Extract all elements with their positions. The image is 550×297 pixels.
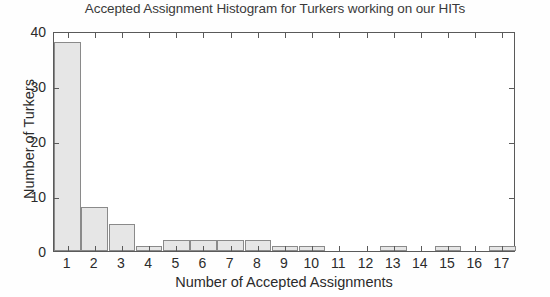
y-tick-label-40: 40 (30, 24, 46, 40)
x-tick-top-8 (258, 33, 259, 38)
x-tick-16 (475, 246, 476, 251)
x-tick-label-9: 9 (269, 255, 299, 271)
x-tick-top-11 (339, 33, 340, 38)
x-tick-2 (95, 246, 96, 251)
bar-2 (81, 207, 108, 251)
x-tick-top-10 (312, 33, 313, 38)
x-tick-label-1: 1 (52, 255, 82, 271)
x-tick-top-4 (149, 33, 150, 38)
x-tick-4 (149, 246, 150, 251)
x-tick-label-6: 6 (187, 255, 217, 271)
plot-area (53, 32, 515, 252)
x-tick-top-16 (475, 33, 476, 38)
y-tick-30 (54, 88, 59, 89)
x-tick-top-12 (367, 33, 368, 38)
y-tick-label-0: 0 (38, 244, 46, 260)
x-tick-3 (122, 246, 123, 251)
x-tick-top-15 (448, 33, 449, 38)
x-tick-top-1 (68, 33, 69, 38)
x-tick-10 (312, 246, 313, 251)
x-tick-14 (421, 246, 422, 251)
x-tick-label-2: 2 (79, 255, 109, 271)
y-tick-right-20 (509, 143, 514, 144)
bar-1 (54, 42, 81, 251)
x-tick-top-3 (122, 33, 123, 38)
x-tick-top-7 (231, 33, 232, 38)
x-tick-label-15: 15 (432, 255, 462, 271)
x-tick-label-13: 13 (378, 255, 408, 271)
x-tick-label-8: 8 (242, 255, 272, 271)
x-axis-label: Number of Accepted Assignments (53, 274, 515, 290)
x-tick-11 (339, 246, 340, 251)
y-tick-right-10 (509, 198, 514, 199)
x-tick-top-6 (203, 33, 204, 38)
x-tick-label-16: 16 (459, 255, 489, 271)
y-tick-20 (54, 143, 59, 144)
y-axis-label: Number of Turkers (21, 44, 37, 234)
x-tick-1 (68, 246, 69, 251)
y-tick-right-30 (509, 88, 514, 89)
x-tick-label-3: 3 (106, 255, 136, 271)
histogram-figure: Accepted Assignment Histogram for Turker… (0, 0, 550, 297)
x-tick-label-12: 12 (351, 255, 381, 271)
x-tick-top-14 (421, 33, 422, 38)
x-tick-label-14: 14 (405, 255, 435, 271)
x-tick-5 (176, 246, 177, 251)
x-tick-label-11: 11 (323, 255, 353, 271)
x-tick-8 (258, 246, 259, 251)
x-tick-label-7: 7 (215, 255, 245, 271)
y-tick-10 (54, 198, 59, 199)
bars-layer (54, 33, 514, 251)
x-tick-top-2 (95, 33, 96, 38)
x-tick-17 (502, 246, 503, 251)
x-tick-label-5: 5 (160, 255, 190, 271)
x-tick-top-17 (502, 33, 503, 38)
x-tick-15 (448, 246, 449, 251)
x-tick-6 (203, 246, 204, 251)
x-tick-top-5 (176, 33, 177, 38)
x-tick-top-13 (394, 33, 395, 38)
x-tick-label-17: 17 (486, 255, 516, 271)
x-tick-12 (367, 246, 368, 251)
x-tick-13 (394, 246, 395, 251)
x-tick-9 (285, 246, 286, 251)
x-tick-top-9 (285, 33, 286, 38)
x-tick-7 (231, 246, 232, 251)
x-tick-label-10: 10 (296, 255, 326, 271)
x-tick-label-4: 4 (133, 255, 163, 271)
chart-title: Accepted Assignment Histogram for Turker… (0, 1, 550, 16)
